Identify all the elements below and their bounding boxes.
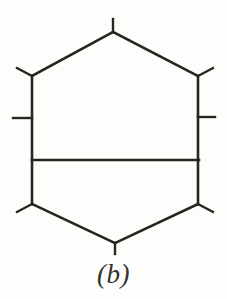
- figure-container: (b): [0, 0, 227, 299]
- edge-bottom-right: [115, 204, 198, 243]
- stub-upper-right-icon: [198, 68, 213, 76]
- hexagon-ring-diagram: [0, 0, 227, 299]
- figure-caption-label: (b): [0, 258, 227, 290]
- edge-top-left: [32, 32, 113, 76]
- edge-top-right: [113, 32, 198, 76]
- stub-lower-right-icon: [198, 204, 213, 212]
- edge-bottom-left: [32, 204, 115, 243]
- stub-upper-left-icon: [17, 68, 32, 76]
- stub-lower-left-icon: [17, 204, 32, 212]
